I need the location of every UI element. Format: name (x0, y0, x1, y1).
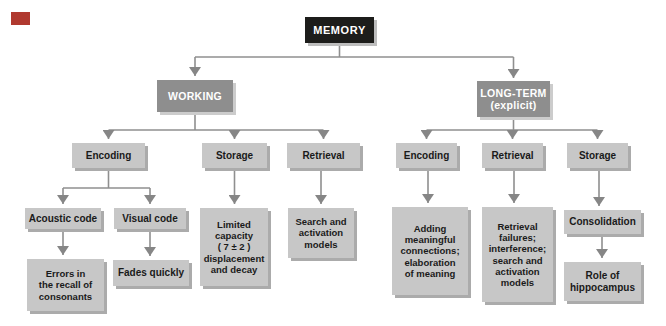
node-memory: MEMORY (305, 17, 374, 43)
node-long-term: LONG-TERM (explicit) (477, 81, 550, 117)
node-role-hippocampus: Role of hippocampus (564, 262, 641, 301)
node-working-label: WORKING (166, 89, 224, 103)
node-working-storage-label: Storage (214, 149, 255, 163)
node-long-term-label: LONG-TERM (explicit) (478, 86, 548, 113)
node-retrieval-failures-label: Retrieval failures; interference; search… (487, 220, 549, 289)
node-working: WORKING (157, 80, 233, 112)
node-adding-meaningful-label: Adding meaningful connections; elaborati… (398, 222, 461, 280)
node-longterm-encoding: Encoding (396, 143, 457, 168)
node-search-activation: Search and activation models (288, 208, 354, 258)
node-role-hippocampus-label: Role of hippocampus (568, 269, 637, 294)
node-visual-code-label: Visual code (120, 212, 179, 226)
node-acoustic-code: Acoustic code (25, 208, 101, 229)
node-errors-recall-label: Errors in the recall of consonants (37, 267, 94, 302)
node-consolidation: Consolidation (564, 210, 641, 234)
node-working-encoding-label: Encoding (84, 149, 134, 163)
node-limited-capacity: Limited capacity ( 7 ± 2 ) displacement … (200, 208, 268, 286)
node-memory-label: MEMORY (311, 23, 368, 38)
node-limited-capacity-label: Limited capacity ( 7 ± 2 ) displacement … (202, 218, 267, 276)
node-retrieval-failures: Retrieval failures; interference; search… (482, 207, 553, 302)
node-working-storage: Storage (202, 143, 267, 168)
node-visual-code: Visual code (114, 208, 186, 229)
node-working-retrieval: Retrieval (287, 143, 360, 168)
node-working-retrieval-label: Retrieval (300, 149, 346, 163)
node-fades-quickly-label: Fades quickly (116, 266, 186, 280)
node-adding-meaningful: Adding meaningful connections; elaborati… (392, 207, 468, 295)
node-fades-quickly: Fades quickly (113, 260, 189, 286)
node-longterm-storage-label: Storage (577, 149, 618, 163)
node-acoustic-code-label: Acoustic code (27, 212, 99, 226)
memory-flowchart: MEMORY WORKING LONG-TERM (explicit) Enco… (0, 0, 666, 326)
node-longterm-retrieval: Retrieval (482, 143, 543, 168)
node-longterm-storage: Storage (567, 143, 628, 168)
node-errors-recall: Errors in the recall of consonants (27, 259, 104, 311)
node-working-encoding: Encoding (72, 143, 145, 168)
node-longterm-retrieval-label: Retrieval (489, 149, 535, 163)
node-longterm-encoding-label: Encoding (402, 149, 452, 163)
node-consolidation-label: Consolidation (567, 215, 638, 229)
node-search-activation-label: Search and activation models (293, 215, 348, 250)
